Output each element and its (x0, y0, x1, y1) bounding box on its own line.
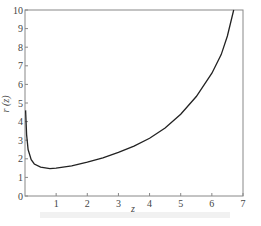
y-tick-label: 10 (13, 5, 23, 16)
y-axis-label: r (z) (0, 95, 12, 113)
x-tick-label: 6 (209, 198, 214, 209)
figure-caption (40, 212, 230, 218)
x-tick-label: 2 (85, 198, 90, 209)
y-tick-label: 2 (18, 153, 23, 164)
y-tick-label: 7 (18, 60, 23, 71)
x-tick-label: 3 (116, 198, 121, 209)
x-tick-label: 7 (241, 198, 246, 209)
chart: 012345678910 1234567 z r (z) (0, 0, 261, 226)
y-tick-label: 4 (18, 116, 23, 127)
y-tick-label: 0 (18, 191, 23, 202)
data-line (26, 10, 234, 169)
x-tick-label: 1 (54, 198, 59, 209)
y-tick-label: 6 (18, 79, 23, 90)
x-tick-label: 5 (178, 198, 183, 209)
y-tick-label: 9 (18, 23, 23, 34)
y-axis-ticks: 012345678910 (13, 5, 28, 202)
x-axis-ticks: 1234567 (54, 193, 246, 209)
y-tick-label: 3 (18, 135, 23, 146)
y-tick-label: 8 (18, 42, 23, 53)
x-tick-label: 4 (147, 198, 152, 209)
y-tick-label: 5 (18, 98, 23, 109)
y-tick-label: 1 (18, 172, 23, 183)
